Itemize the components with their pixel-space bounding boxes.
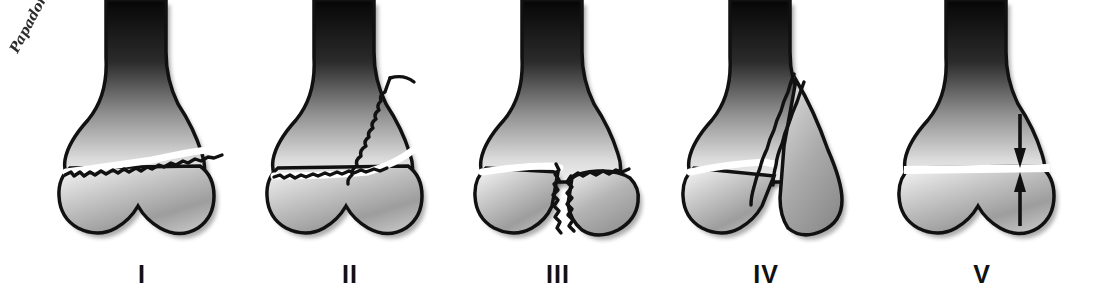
humeral-shaft-metaphysis — [273, 0, 413, 182]
figure-panel-type-1: I — [32, 0, 252, 291]
distal-epiphysis-medial — [683, 168, 774, 233]
bone-illustration-type-1 — [32, 0, 252, 252]
distal-epiphysis — [899, 166, 1054, 234]
salter-harris-classification-figure: I — [0, 0, 1103, 291]
bone-illustration-type-5 — [872, 0, 1092, 252]
figure-panel-type-2: II — [240, 0, 460, 291]
figure-label-type-3: III — [448, 262, 668, 287]
physis-growth-plate — [904, 168, 1050, 170]
figure-panel-type-4: IV — [656, 0, 876, 291]
bone-illustration-type-4 — [656, 0, 876, 252]
metaphyseal-fragment-edge — [390, 77, 414, 82]
bone-illustration-type-2 — [240, 0, 460, 252]
figure-label-type-4: IV — [656, 262, 876, 287]
figure-panel-type-5: V — [872, 0, 1092, 291]
figure-label-type-1: I — [32, 262, 252, 287]
figure-label-type-5: V — [872, 262, 1092, 287]
figure-label-type-2: II — [240, 262, 460, 287]
bone-illustration-type-3 — [448, 0, 668, 252]
humeral-shaft-metaphysis — [481, 0, 621, 182]
figure-panel-type-3: III — [448, 0, 668, 291]
